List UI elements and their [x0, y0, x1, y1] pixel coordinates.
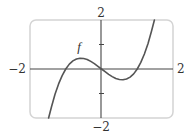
y-min-label: −2 [92, 120, 110, 134]
x-max-label: 2 [177, 62, 185, 76]
function-graph: 2 −2 −2 2 f [0, 0, 192, 140]
x-min-label: −2 [8, 62, 26, 76]
y-max-label: 2 [97, 6, 105, 20]
function-label-f: f [77, 39, 83, 54]
